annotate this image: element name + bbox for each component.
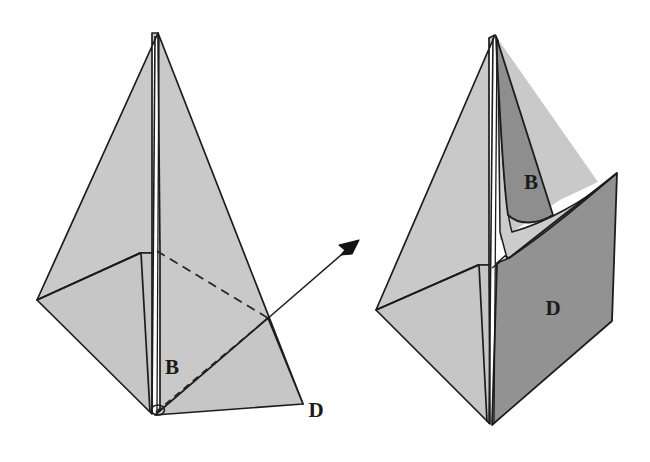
- transform-arrow: [266, 240, 359, 320]
- left-label-d: D: [308, 398, 323, 422]
- transform-arrow-shaft: [266, 249, 348, 320]
- transform-arrow-head: [339, 240, 359, 255]
- right-label-b: B: [524, 170, 538, 194]
- left-figure-group: B D B D: [0, 0, 650, 462]
- right-label-d: D: [545, 296, 560, 320]
- figure-canvas: B D B D: [0, 0, 650, 462]
- left-label-b: B: [165, 355, 179, 379]
